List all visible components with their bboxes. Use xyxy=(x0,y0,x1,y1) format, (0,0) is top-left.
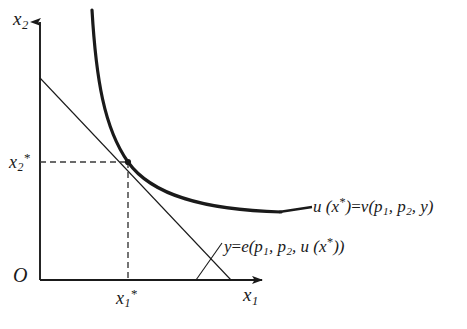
y-tick-base: x xyxy=(9,152,17,172)
x-axis-label: x1 xyxy=(243,285,258,307)
y-tick-label: x2* xyxy=(9,152,30,174)
y-tick-star: * xyxy=(23,150,30,165)
budget-line xyxy=(40,78,231,280)
x-tick-star: * xyxy=(130,286,137,301)
utility-rhs-comma2: , y xyxy=(412,197,428,216)
figure-canvas xyxy=(0,0,467,329)
x-tick-base: x xyxy=(116,288,124,308)
utility-lhs-arg: (x xyxy=(326,197,339,216)
expenditure-equation-label: y=e(p1, p2, u (x*)) xyxy=(224,236,345,257)
expenditure-comma1: , p xyxy=(269,237,286,256)
expenditure-equals: = xyxy=(232,237,242,256)
economics-figure: x2 x1 O x2* x1* u (x*)=v(p1, p2, y) y=e(… xyxy=(0,0,467,329)
utility-rhs-comma1: , p xyxy=(389,197,406,216)
y-axis-label-subscript: 2 xyxy=(21,18,28,32)
x-axis-label-subscript: 1 xyxy=(251,294,258,308)
origin-label: O xyxy=(13,265,27,285)
expenditure-fn: e xyxy=(241,237,249,256)
utility-equals: = xyxy=(351,197,361,216)
expenditure-open: (p xyxy=(249,237,263,256)
utility-equation-leader-line xyxy=(279,207,312,212)
utility-rhs-open: (p xyxy=(368,197,382,216)
expenditure-equation-leader-line xyxy=(196,243,222,280)
expenditure-comma2: , u (x xyxy=(292,237,326,256)
expenditure-close: )) xyxy=(333,237,344,256)
utility-lhs-fn: u xyxy=(313,197,322,216)
utility-lhs-star: * xyxy=(339,195,346,209)
utility-rhs-close: ) xyxy=(428,197,434,216)
indifference-curve xyxy=(92,10,281,212)
expenditure-lhs: y xyxy=(224,237,232,256)
x-tick-label: x1* xyxy=(116,288,137,310)
tangency-point xyxy=(125,159,131,165)
utility-equation-label: u (x*)=v(p1, p2, y) xyxy=(313,196,434,217)
y-axis-label: x2 xyxy=(13,9,28,31)
